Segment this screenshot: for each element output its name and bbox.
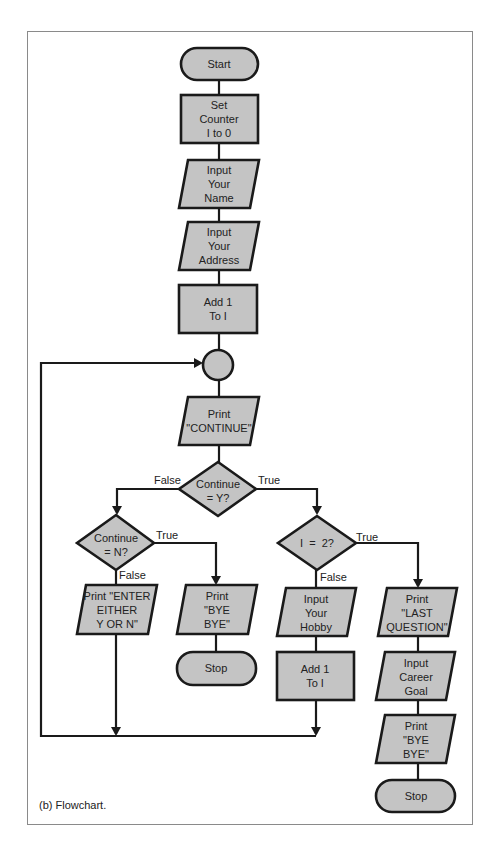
- print-bye-b-label-3: BYE": [403, 748, 429, 760]
- add-one-b-label-2: To I: [306, 677, 324, 689]
- input-career-label-2: Career: [399, 671, 433, 683]
- print-enter-io: Print "ENTER EITHER Y OR N": [77, 585, 157, 634]
- input-hobby-label-1: Input: [304, 593, 328, 605]
- print-bye-b-label-2: "BYE: [403, 734, 429, 746]
- set-counter-label-1: Set: [211, 99, 228, 111]
- figure-caption: (b) Flowchart.: [39, 799, 106, 811]
- input-address-label-2: Your: [208, 240, 231, 252]
- print-last-label-1: Print: [406, 593, 429, 605]
- input-address-label-1: Input: [207, 226, 231, 238]
- stop-terminator-a: Stop: [177, 652, 256, 685]
- print-enter-label-3: Y OR N": [96, 618, 138, 630]
- stop-a-label: Stop: [205, 662, 228, 674]
- edge-label-n-false: False: [119, 569, 146, 581]
- add-one-process-a: Add 1 To I: [179, 285, 257, 333]
- input-name-label-2: Your: [208, 178, 231, 190]
- input-address-label-3: Address: [199, 254, 240, 266]
- input-career-goal-io: Input Career Goal: [376, 652, 455, 700]
- stop-b-label: Stop: [405, 790, 428, 802]
- edge-label-y-true: True: [258, 474, 280, 486]
- edge-label-i2-true: True: [356, 531, 378, 543]
- input-name-label-3: Name: [204, 192, 233, 204]
- input-name-io: Input Your Name: [179, 160, 259, 208]
- flowchart: Start Set Counter I to 0 Input Your Name…: [0, 0, 495, 859]
- add-one-a-label-1: Add 1: [204, 296, 233, 308]
- input-hobby-label-2: Your: [305, 607, 328, 619]
- print-continue-label-2: "CONTINUE": [186, 422, 251, 434]
- print-bye-io-a: Print "BYE BYE": [177, 585, 257, 634]
- print-last-question-io: Print "LAST QUESTION": [378, 588, 457, 636]
- set-counter-process: Set Counter I to 0: [181, 95, 258, 143]
- add-one-b-label-1: Add 1: [301, 663, 330, 675]
- print-enter-label-1: Print "ENTER: [84, 590, 151, 602]
- print-bye-a-label-2: "BYE: [204, 604, 230, 616]
- edge-label-n-true: True: [156, 529, 178, 541]
- edge-label-y-false: False: [154, 474, 181, 486]
- input-hobby-io: Input Your Hobby: [277, 588, 356, 636]
- print-bye-a-label-3: BYE": [204, 618, 230, 630]
- set-counter-label-2: Counter: [199, 113, 238, 125]
- decision-i2-label: I = 2?: [300, 537, 334, 549]
- input-career-label-1: Input: [404, 657, 428, 669]
- print-enter-label-2: EITHER: [97, 604, 137, 616]
- input-address-io: Input Your Address: [179, 222, 259, 270]
- decision-n-label-1: Continue: [94, 532, 138, 544]
- print-bye-a-label-1: Print: [206, 590, 229, 602]
- print-continue-io: Print "CONTINUE": [179, 397, 259, 445]
- stop-terminator-b: Stop: [376, 780, 455, 812]
- add-one-a-label-2: To I: [209, 310, 227, 322]
- print-continue-label-1: Print: [208, 408, 231, 420]
- start-terminator: Start: [181, 48, 258, 80]
- print-last-label-3: QUESTION": [386, 621, 447, 633]
- print-last-label-2: "LAST: [401, 607, 433, 619]
- decision-y-label-1: Continue: [196, 478, 240, 490]
- add-one-process-b: Add 1 To I: [277, 652, 354, 700]
- print-bye-b-label-1: Print: [405, 720, 428, 732]
- edge-label-i2-false: False: [320, 571, 347, 583]
- loop-connector: [203, 350, 233, 380]
- decision-n-label-2: = N?: [104, 546, 128, 558]
- set-counter-label-3: I to 0: [207, 127, 231, 139]
- decision-continue-y: Continue = Y?: [179, 462, 256, 516]
- input-name-label-1: Input: [207, 164, 231, 176]
- start-label: Start: [207, 58, 230, 70]
- input-career-label-3: Goal: [404, 685, 427, 697]
- decision-y-label-2: = Y?: [207, 492, 230, 504]
- print-bye-io-b: Print "BYE BYE": [376, 715, 455, 763]
- decision-continue-n: Continue = N?: [77, 515, 154, 570]
- decision-i-equals-2: I = 2?: [278, 516, 356, 570]
- input-hobby-label-3: Hobby: [300, 621, 332, 633]
